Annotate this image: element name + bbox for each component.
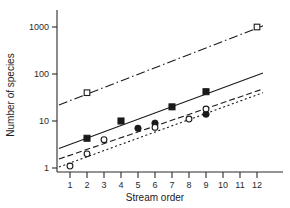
x-tick-label: 11 <box>235 180 244 190</box>
x-tick-label: 3 <box>101 180 106 190</box>
data-point-open-square <box>254 24 260 30</box>
x-tick-label: 7 <box>169 180 174 190</box>
data-point-open-square <box>84 90 90 96</box>
x-tick-label: 10 <box>218 180 228 190</box>
data-point-open-circle <box>84 151 90 157</box>
axis-lines <box>57 10 283 172</box>
chart-container: 1101001000 123456789101112 Stream order … <box>0 0 290 208</box>
y-axis-title: Number of species <box>5 53 16 136</box>
x-axis-title: Stream order <box>126 192 185 203</box>
x-tick-label: 2 <box>84 180 89 190</box>
data-point-filled-square <box>203 89 209 95</box>
x-tick-label: 6 <box>152 180 157 190</box>
data-point-open-circle <box>203 106 209 112</box>
x-axis-ticks: 123456789101112 <box>67 172 262 190</box>
series-data-markers <box>67 24 260 169</box>
x-tick-label: 5 <box>135 180 140 190</box>
data-point-open-circle <box>186 116 192 122</box>
y-tick-label: 10 <box>39 116 49 126</box>
data-point-open-circle <box>101 137 107 143</box>
x-tick-label: 1 <box>67 180 72 190</box>
data-point-open-circle <box>67 163 73 169</box>
y-tick-label: 100 <box>34 69 49 79</box>
x-tick-label: 9 <box>203 180 208 190</box>
y-tick-label: 1 <box>44 163 49 173</box>
species-vs-stream-order-chart: 1101001000 123456789101112 Stream order … <box>0 0 290 208</box>
y-tick-label: 1000 <box>29 22 49 32</box>
y-axis-ticks: 1101001000 <box>29 22 57 173</box>
fit-line-filled-circles-dashed <box>59 89 263 159</box>
x-tick-label: 12 <box>252 180 262 190</box>
data-point-filled-circle <box>135 125 141 131</box>
x-tick-label: 8 <box>186 180 191 190</box>
x-tick-label: 4 <box>118 180 123 190</box>
data-point-open-circle <box>152 125 158 131</box>
data-point-filled-square <box>118 118 124 124</box>
data-point-filled-square <box>84 135 90 141</box>
data-point-filled-square <box>169 104 175 110</box>
series-fit-lines <box>59 26 263 167</box>
